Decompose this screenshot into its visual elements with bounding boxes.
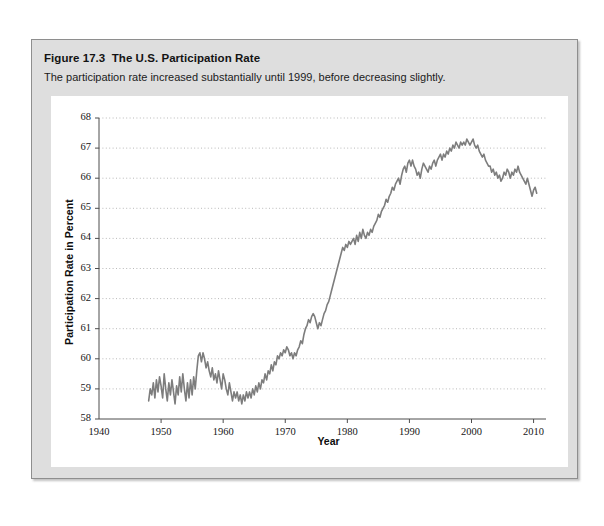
x-tick-label: 1940 [76,426,122,437]
figure-subtitle: The participation rate increased substan… [44,69,564,85]
plot-card: Participation Rate in Percent Year 58596… [51,96,568,467]
x-tick-label: 1980 [324,426,370,437]
figure-caption-block: Figure 17.3 The U.S. Participation Rate … [44,50,564,85]
x-tick-label: 1950 [138,426,184,437]
x-tick-label: 1990 [386,426,432,437]
x-tick-label: 1960 [200,426,246,437]
figure-panel: Figure 17.3 The U.S. Participation Rate … [31,39,578,479]
figure-title: Figure 17.3 The U.S. Participation Rate [44,50,564,66]
x-tick-label: 1970 [262,426,308,437]
chart-area: Participation Rate in Percent Year 58596… [51,96,568,467]
x-tick-label: 2000 [449,426,495,437]
x-tick-label: 2010 [511,426,557,437]
figure-number: Figure 17.3 [44,52,105,64]
figure-title-text: The U.S. Participation Rate [112,52,260,64]
x-tick-labels: 19401950196019701980199020002010 [51,96,568,467]
figure-screenshot: Figure 17.3 The U.S. Participation Rate … [0,0,604,526]
